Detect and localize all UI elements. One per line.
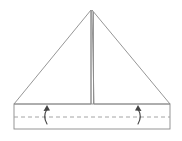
left-triangle-flap	[14, 10, 91, 104]
right-triangle-flap	[92, 10, 170, 104]
fold-up-arrow-right	[135, 105, 142, 124]
origami-diagram	[0, 0, 182, 141]
bottom-band	[14, 104, 170, 129]
fold-up-arrow-left	[44, 105, 51, 124]
